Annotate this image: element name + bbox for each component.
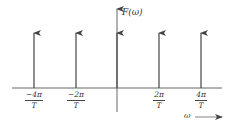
- tick-label-neg-4pi: −4π T: [19, 91, 49, 109]
- tick-label-neg-2pi: −2π T: [61, 91, 91, 109]
- tick-label-4pi: 4π T: [186, 91, 216, 109]
- y-axis-label: F(ω): [122, 8, 143, 17]
- tick-label-2pi: 2π T: [144, 91, 174, 109]
- diagram-graphics: [0, 0, 232, 129]
- impulse-train-diagram: F(ω) −4π T −2π T 2π T 4π T ω: [0, 0, 232, 129]
- x-axis-label: ω: [184, 112, 191, 120]
